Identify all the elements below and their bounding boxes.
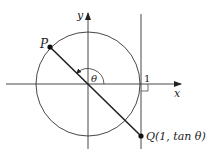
point-q-label: Q(1, tan θ) bbox=[146, 130, 206, 143]
line-pq bbox=[50, 47, 141, 136]
angle-label: θ bbox=[91, 73, 97, 84]
point-p bbox=[47, 44, 52, 49]
x-axis-label: x bbox=[174, 87, 181, 100]
point-q bbox=[138, 133, 143, 138]
diagram-svg: y x P θ 1 Q(1, tan θ) bbox=[0, 0, 208, 161]
point-p-label: P bbox=[39, 37, 49, 51]
unit-circle-diagram: y x P θ 1 Q(1, tan θ) bbox=[0, 0, 208, 161]
right-angle-marker bbox=[141, 84, 148, 91]
y-axis-label: y bbox=[76, 9, 84, 22]
tick-label-one: 1 bbox=[144, 73, 150, 84]
